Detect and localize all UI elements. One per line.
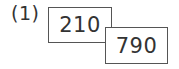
number-value: 790: [116, 34, 158, 58]
number-box-first: 210: [48, 7, 112, 43]
problem-number-label: (1): [11, 1, 39, 25]
number-box-second: 790: [105, 27, 168, 64]
number-value: 210: [59, 13, 101, 37]
